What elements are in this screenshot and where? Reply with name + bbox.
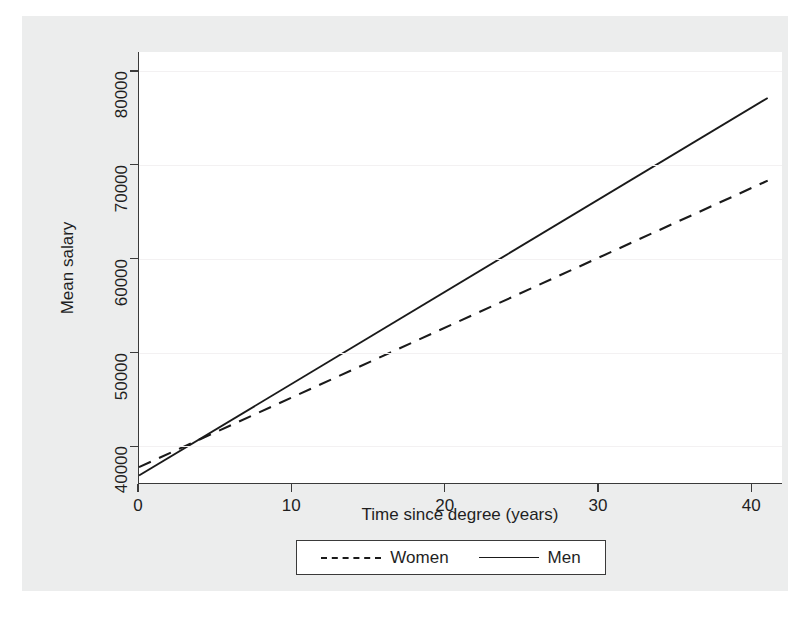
gridline (139, 446, 782, 447)
gridline (139, 353, 782, 354)
x-tick-mark (137, 484, 139, 492)
gridline (139, 165, 782, 166)
series-line-men (139, 98, 768, 476)
y-tick-label: 50000 (112, 353, 132, 400)
y-tick-label: 60000 (112, 259, 132, 306)
chart-screenshot: 4000050000600007000080000 010203040 Time… (0, 0, 809, 617)
graph-region: 4000050000600007000080000 010203040 Time… (22, 16, 788, 591)
y-tick-label: 40000 (112, 446, 132, 493)
legend-key-solid-icon (479, 557, 539, 559)
legend-item-men: Men (479, 548, 581, 568)
x-axis-title: Time since degree (years) (138, 505, 782, 525)
gridline (139, 71, 782, 72)
legend-label-women: Women (390, 548, 448, 568)
series-line-women (139, 181, 768, 467)
legend-label-men: Men (548, 548, 581, 568)
legend-key-dashed-icon (321, 557, 381, 559)
plot-inner (139, 52, 782, 483)
plot-area (138, 52, 782, 484)
x-tick-mark (444, 484, 446, 492)
y-tick-label: 70000 (112, 165, 132, 212)
y-axis-title: Mean salary (58, 222, 78, 315)
y-tick-label: 80000 (112, 71, 132, 118)
chart-legend: Women Men (296, 540, 606, 575)
x-tick-mark (751, 484, 753, 492)
gridline (139, 259, 782, 260)
legend-item-women: Women (321, 548, 448, 568)
x-tick-mark (291, 484, 293, 492)
x-tick-mark (597, 484, 599, 492)
series-layer (139, 52, 783, 484)
